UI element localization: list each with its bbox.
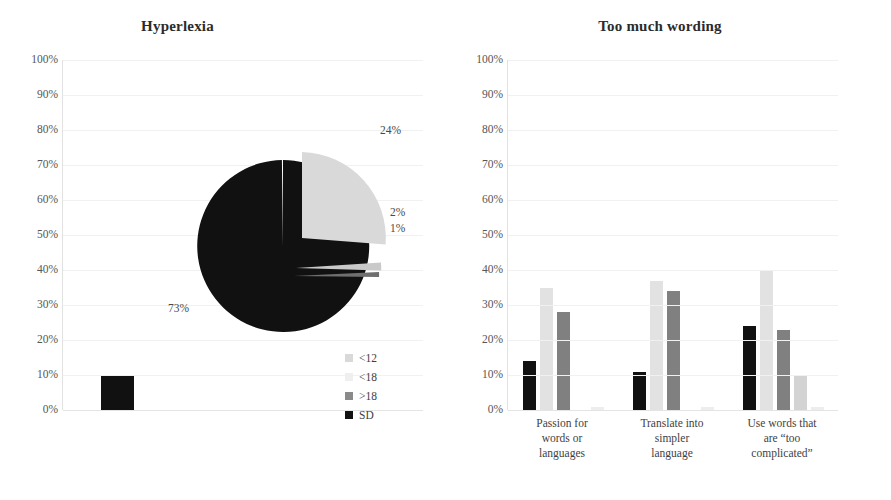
- x-axis-label: Translate intosimplerlanguage: [617, 416, 727, 461]
- bar-never[interactable]: [633, 372, 646, 411]
- bar-always[interactable]: [794, 375, 807, 410]
- x-axis-label-line: Translate into: [619, 416, 725, 431]
- x-axis-label-line: Use words that: [729, 416, 835, 431]
- pie-value-lt12: 24%: [380, 124, 401, 136]
- legend-swatch-icon: [345, 411, 353, 419]
- y-tick-label: 80%: [482, 124, 503, 136]
- page-title-hyperlexia: Hyperlexia: [0, 18, 400, 35]
- bar-often[interactable]: [667, 291, 680, 410]
- y-tick-label: 60%: [37, 194, 58, 206]
- y-tick-label: 20%: [482, 334, 503, 346]
- gridline: [508, 340, 838, 341]
- x-axis-label: Use words thatare “toocomplicated”: [727, 416, 837, 461]
- x-axis-label-line: languages: [509, 446, 615, 461]
- gridline: [508, 130, 838, 131]
- y-tick-label: 40%: [37, 264, 58, 276]
- gridline: [508, 95, 838, 96]
- x-axis-label-line: complicated”: [729, 446, 835, 461]
- bar-sometimes[interactable]: [650, 281, 663, 411]
- bar-often[interactable]: [557, 312, 570, 410]
- y-tick-label: 50%: [482, 229, 503, 241]
- legend-item[interactable]: <12: [345, 348, 377, 367]
- legend-hyperlexia: <12<18>18SD: [345, 348, 377, 424]
- gridline: [63, 60, 423, 61]
- y-tick-label: 100%: [31, 54, 58, 66]
- gridline: [508, 410, 838, 411]
- x-axis-label-line: words or: [509, 431, 615, 446]
- legend-item-label: <12: [359, 352, 377, 364]
- figure-canvas: Hyperlexia 100%90%80%70%60%50%40%30%20%1…: [0, 0, 891, 500]
- y-axis-left: 100%90%80%70%60%50%40%30%20%10%0%: [0, 52, 62, 418]
- gridline: [508, 60, 838, 61]
- pie-value-gt18: 1%: [390, 222, 405, 234]
- gridline: [508, 305, 838, 306]
- legend-swatch-icon: [345, 392, 353, 400]
- y-axis-right: 100%90%80%70%60%50%40%30%20%10%0%: [445, 52, 507, 418]
- page-title-too-much-wording: Too much wording: [437, 18, 883, 35]
- legend-item-label: >18: [359, 390, 377, 402]
- y-tick-label: 10%: [37, 369, 58, 381]
- legend-swatch-icon: [345, 354, 353, 362]
- x-axis-label: Passion forwords orlanguages: [507, 416, 617, 461]
- bar-sd-overlay: [101, 375, 134, 410]
- gridline: [63, 95, 423, 96]
- legend-item-label: SD: [359, 409, 374, 421]
- y-tick-label: 30%: [482, 299, 503, 311]
- x-axis-label-line: Passion for: [509, 416, 615, 431]
- y-tick-label: 20%: [37, 334, 58, 346]
- y-tick-label: 40%: [482, 264, 503, 276]
- legend-swatch-icon: [345, 373, 353, 381]
- x-axis-label-line: simpler: [619, 431, 725, 446]
- bar-never[interactable]: [523, 361, 536, 410]
- y-tick-label: 60%: [482, 194, 503, 206]
- gridline: [508, 165, 838, 166]
- y-tick-label: 10%: [482, 369, 503, 381]
- pie-svg: [175, 120, 435, 370]
- legend-item[interactable]: SD: [345, 405, 377, 424]
- gridline: [508, 270, 838, 271]
- chart-panel-hyperlexia: Hyperlexia 100%90%80%70%60%50%40%30%20%1…: [0, 0, 445, 500]
- x-axis-label-line: language: [619, 446, 725, 461]
- y-tick-label: 70%: [482, 159, 503, 171]
- legend-item[interactable]: >18: [345, 386, 377, 405]
- y-tick-label: 0%: [488, 404, 503, 416]
- x-axis-labels: Passion forwords orlanguagesTranslate in…: [507, 416, 837, 461]
- gridline: [508, 375, 838, 376]
- y-tick-label: 90%: [482, 89, 503, 101]
- bar-never[interactable]: [743, 326, 756, 410]
- legend-item[interactable]: <18: [345, 367, 377, 386]
- y-tick-label: 30%: [37, 299, 58, 311]
- y-tick-label: 100%: [476, 54, 503, 66]
- x-axis-label-line: are “too: [729, 431, 835, 446]
- y-tick-label: 80%: [37, 124, 58, 136]
- y-tick-label: 90%: [37, 89, 58, 101]
- pie-value-sd: 73%: [168, 302, 189, 314]
- pie-chart-hyperlexia: 24% 2% 1% 73%: [175, 120, 435, 370]
- gridline: [508, 200, 838, 201]
- chart-panel-too-much-wording: Too much wording 100%90%80%70%60%50%40%3…: [445, 0, 891, 500]
- y-tick-label: 0%: [43, 404, 58, 416]
- y-tick-label: 50%: [37, 229, 58, 241]
- legend-item-label: <18: [359, 371, 377, 383]
- pie-value-lt18: 2%: [390, 206, 405, 218]
- y-tick-label: 70%: [37, 159, 58, 171]
- plot-area-right: [507, 60, 838, 410]
- pie-slice-lt12[interactable]: [302, 152, 386, 244]
- bar-often[interactable]: [777, 330, 790, 411]
- gridline: [508, 235, 838, 236]
